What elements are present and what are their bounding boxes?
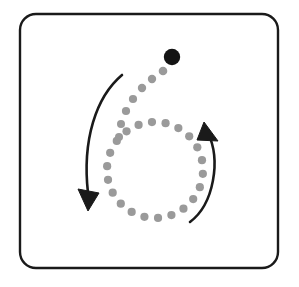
track-dot <box>154 214 162 222</box>
rotation-diagram <box>0 0 299 287</box>
track-dot <box>161 119 169 127</box>
tail-dot <box>159 67 168 76</box>
tail-dot <box>117 120 125 128</box>
tail-dot <box>138 84 146 92</box>
tail-dot <box>129 95 137 103</box>
track-dot <box>148 118 156 126</box>
figure-container <box>0 0 299 287</box>
track-dot <box>199 170 207 178</box>
track-dot <box>117 200 125 208</box>
track-dot <box>128 208 136 216</box>
track-dot <box>198 156 206 164</box>
rounded-square-border <box>20 14 278 268</box>
track-dot <box>103 162 111 170</box>
track-dot <box>109 189 117 197</box>
track-dot <box>122 127 130 135</box>
track-dot <box>104 176 112 184</box>
tail-dot <box>122 107 130 115</box>
track-dot <box>167 211 175 219</box>
track-dot <box>134 121 142 129</box>
track-dot <box>185 132 193 140</box>
track-dot <box>196 183 204 191</box>
track-dot <box>193 143 201 151</box>
tail-dot <box>148 75 156 83</box>
tail-dot <box>115 133 123 141</box>
track-dot <box>106 149 114 157</box>
track-dot <box>189 195 197 203</box>
track-dot <box>179 205 187 213</box>
track-dot <box>140 213 148 221</box>
leading-black-dot <box>164 49 180 65</box>
track-dot <box>174 124 182 132</box>
